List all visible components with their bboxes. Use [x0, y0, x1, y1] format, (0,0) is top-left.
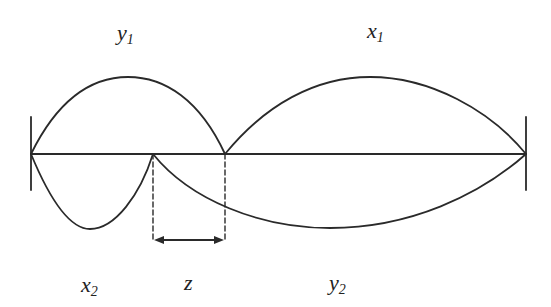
- arrowhead-right-icon: [214, 236, 224, 244]
- arc-y1: [31, 77, 225, 154]
- label-x1-sub: 1: [377, 30, 384, 45]
- label-z: z: [184, 272, 193, 294]
- label-y2-base: y: [329, 270, 339, 295]
- diagram-canvas: [0, 0, 551, 307]
- label-x2-base: x: [81, 272, 91, 297]
- label-x2-sub: 2: [91, 284, 98, 299]
- arc-x2: [31, 154, 153, 229]
- label-x1-base: x: [367, 18, 377, 43]
- label-y2: y2: [329, 272, 346, 297]
- label-y1-sub: 1: [127, 32, 134, 47]
- arc-y2: [153, 154, 526, 228]
- label-y2-sub: 2: [339, 282, 346, 297]
- arc-x1: [225, 77, 526, 154]
- arrowhead-left-icon: [154, 236, 164, 244]
- label-x2: x2: [81, 274, 98, 299]
- label-y1: y1: [117, 22, 134, 47]
- label-y1-base: y: [117, 20, 127, 45]
- label-x1: x1: [367, 20, 384, 45]
- label-z-base: z: [184, 270, 193, 295]
